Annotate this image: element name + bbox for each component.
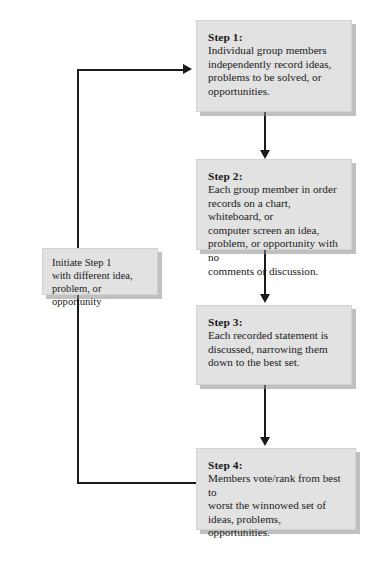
arrowhead-down-icon-step2	[260, 150, 270, 159]
feedback-loop-bottom-segment	[77, 482, 196, 484]
process-box-step2[interactable]: Step 2: Each group member in order recor…	[196, 159, 352, 250]
flowchart-canvas: Step 1: Individual group members indepen…	[0, 0, 367, 563]
step4-heading: Step 4:	[208, 458, 345, 472]
step4-body: Members vote/rank from best to worst the…	[208, 472, 345, 540]
step3-heading: Step 3:	[208, 315, 341, 329]
initiate-body: Initiate Step 1 with different idea, pro…	[52, 256, 149, 308]
step3-body: Each recorded statement is discussed, na…	[208, 329, 341, 370]
process-box-initiate-step1[interactable]: Initiate Step 1 with different idea, pro…	[42, 248, 158, 295]
step2-heading: Step 2:	[208, 169, 341, 183]
step1-heading: Step 1:	[208, 30, 341, 44]
connector-step3-to-step4-line	[264, 385, 266, 439]
connector-step1-to-step2-line	[264, 112, 266, 152]
step1-body: Individual group members independently r…	[208, 44, 341, 98]
arrowhead-right-icon-step1	[183, 64, 192, 74]
arrowhead-down-icon-step3	[260, 294, 270, 303]
feedback-loop-top-segment	[77, 69, 187, 71]
arrowhead-down-icon-step4	[260, 437, 270, 446]
process-box-step3[interactable]: Step 3: Each recorded statement is discu…	[196, 305, 352, 385]
process-box-step1[interactable]: Step 1: Individual group members indepen…	[196, 20, 352, 112]
process-box-step4[interactable]: Step 4: Members vote/rank from best to w…	[196, 448, 356, 530]
step2-body: Each group member in order records on a …	[208, 183, 341, 278]
